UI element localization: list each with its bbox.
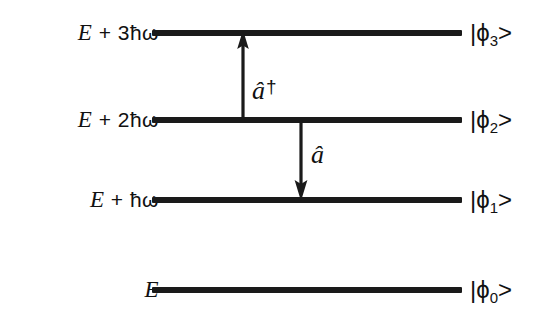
ket-label-0: |ϕ0> [470, 271, 512, 317]
level-line-2 [152, 117, 462, 123]
ket-open-2: |ϕ [470, 106, 490, 133]
energy-term-1: + ħω [104, 188, 159, 211]
ket-close-2: > [498, 106, 512, 133]
level-line-3 [152, 30, 462, 36]
energy-term-2: + 2ħω [92, 108, 159, 131]
ket-label-2: |ϕ2> [470, 101, 512, 147]
ket-close-0: > [498, 276, 512, 303]
level-line-0 [152, 287, 462, 293]
ket-open-0: |ϕ [470, 276, 490, 303]
dagger-icon: † [266, 76, 277, 97]
ket-label-3: |ϕ3> [470, 14, 512, 60]
energy-label-1: E + ħω [0, 183, 159, 217]
energy-level-diagram: E + 3ħω |ϕ3> E + 2ħω |ϕ2> E + ħω |ϕ1> E … [0, 0, 559, 322]
energy-symbol-2: E [78, 107, 93, 132]
ket-index-3: 3 [490, 32, 498, 49]
raising-operator-symbol: â [252, 76, 265, 105]
ket-index-2: 2 [490, 119, 498, 136]
lowering-arrow-icon [295, 120, 308, 201]
energy-symbol-3: E [78, 20, 93, 45]
ket-index-0: 0 [490, 289, 498, 306]
raising-arrow-icon [237, 30, 249, 120]
ket-open-1: |ϕ [470, 186, 490, 213]
energy-label-3: E + 3ħω [0, 16, 159, 50]
lowering-operator-symbol: â [311, 140, 324, 169]
ket-open-3: |ϕ [470, 19, 490, 46]
level-line-1 [152, 197, 462, 203]
energy-label-0: E [0, 273, 159, 307]
raising-operator-label: â† [252, 76, 277, 106]
energy-label-2: E + 2ħω [0, 103, 159, 137]
ket-close-3: > [498, 19, 512, 46]
energy-symbol-1: E [90, 187, 105, 212]
ket-close-1: > [498, 186, 512, 213]
energy-term-3: + 3ħω [92, 21, 159, 44]
lowering-operator-label: â [311, 140, 324, 170]
ket-label-1: |ϕ1> [470, 181, 512, 227]
ket-index-1: 1 [490, 199, 498, 216]
